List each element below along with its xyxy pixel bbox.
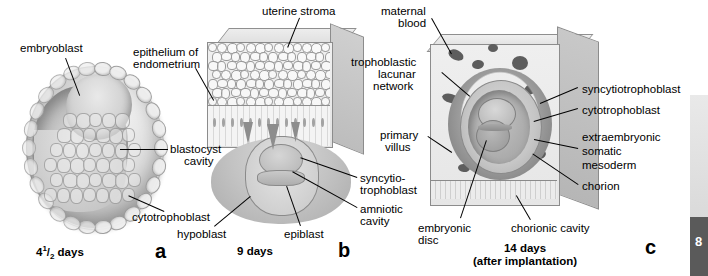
epithelial-nucleus (240, 118, 243, 127)
leader-blastocyst-cavity (120, 149, 168, 150)
panel-letter-b: b (338, 239, 350, 262)
inner-cell (128, 173, 141, 187)
panel-c-implantation-illustration (428, 32, 618, 224)
lacuna-space (488, 44, 498, 52)
caption-panel-c-line1: 14 days (440, 242, 610, 255)
inner-cell (83, 158, 96, 172)
inner-cell (102, 143, 115, 158)
caption-panel-c-line2: (after implantation) (440, 255, 610, 268)
label-maternal-blood-line2: blood (398, 17, 426, 29)
stroma-cell (321, 97, 330, 105)
inner-cell (57, 188, 70, 203)
label-epithelium-of-endometrium-line2: endometrium (133, 58, 200, 70)
label-embryoblast: embryoblast (20, 42, 83, 54)
label-embryonic-disc-line2: disc (418, 234, 438, 246)
inner-cell (89, 173, 102, 187)
inner-cell (115, 143, 128, 159)
inner-cell (96, 158, 110, 173)
stroma-cell (236, 43, 245, 52)
panel-letter-a: a (155, 240, 166, 263)
inner-cell (63, 143, 76, 158)
stroma-cell (264, 97, 273, 105)
panel-letter-c: c (645, 236, 656, 259)
label-primary-villus-line2: villus (385, 141, 411, 153)
stroma-cell (283, 61, 293, 70)
label-extraembryonic-somatic-mesoderm-line1: extraembryonic (582, 131, 661, 143)
stroma-cell (264, 43, 273, 52)
page-edge-block: 8 (686, 95, 708, 276)
label-syncytiotrophoblast-b-line2: trophoblast (360, 184, 417, 196)
embryonic-disc-b (257, 170, 305, 186)
label-cytotrophoblast-c: cytotrophoblast (582, 104, 660, 116)
lacuna-space (512, 56, 528, 70)
label-blastocyst-cavity-line2: cavity (184, 155, 213, 167)
stroma-cell (287, 88, 297, 97)
inner-cell (122, 128, 135, 142)
stroma-cell (236, 97, 245, 105)
label-syncytiotrophoblast-b-line1: syncytio- (360, 172, 405, 184)
label-syncytiotrophoblast-c: syncytiotrophoblast (582, 83, 680, 95)
label-trophoblastic-lacunar-network-line1: trophoblastic (351, 56, 416, 68)
label-chorionic-cavity: chorionic cavity (511, 222, 590, 234)
stroma-cell (315, 88, 325, 97)
uterine-stroma-texture (208, 43, 330, 105)
inner-cell (70, 128, 84, 144)
stroma-cell (208, 43, 217, 52)
label-amniotic-cavity-line2: cavity (360, 215, 389, 227)
stroma-cell (212, 70, 221, 79)
inner-cell (102, 113, 116, 128)
trophoblast-cell (93, 219, 113, 235)
inner-cell (44, 188, 57, 202)
inner-cell (122, 158, 135, 172)
epithelial-nucleus (312, 118, 315, 127)
stroma-cell (293, 43, 302, 52)
page-number: 8 (695, 234, 702, 249)
inner-cell (96, 188, 109, 203)
label-chorion: chorion (582, 180, 620, 192)
uterine-block-side-face (330, 23, 364, 155)
label-trophoblastic-lacunar-network-line3: network (373, 80, 413, 92)
caption-panel-a: 41/2 days (36, 245, 146, 261)
inner-cell (76, 173, 90, 189)
stroma-cell (268, 70, 277, 79)
stroma-cell (293, 97, 302, 105)
embryonic-disc-c (478, 124, 512, 131)
label-blastocyst-cavity-line1: blastocyst (170, 143, 221, 155)
epithelial-nucleus (285, 118, 288, 127)
surface-epithelium-c (431, 180, 557, 199)
stroma-cell (311, 61, 321, 70)
implantation-figure: embryoblast blastocyst cavity cytotropho… (0, 0, 708, 276)
inner-cell (83, 128, 96, 142)
stroma-cell (325, 70, 330, 79)
inner-cell (44, 158, 57, 172)
epithelial-nucleus (303, 118, 306, 127)
label-uterine-stroma: uterine stroma (262, 5, 336, 17)
inner-cell (109, 128, 123, 144)
stroma-cell (321, 43, 330, 52)
inner-cell (50, 173, 63, 187)
inner-cell (70, 188, 83, 204)
label-maternal-blood-line1: maternal (381, 5, 426, 17)
label-embryonic-disc-line1: embryonic (418, 222, 471, 234)
inner-cell (89, 113, 102, 127)
label-extraembryonic-somatic-mesoderm-line2: somatic (582, 145, 622, 157)
page-edge-light-band (690, 95, 708, 217)
inner-cell (89, 143, 102, 157)
panel-a-blastocyst-illustration (18, 62, 170, 234)
inner-cell (63, 113, 77, 128)
caption-panel-b: 9 days (210, 245, 300, 258)
epithelial-nucleus (321, 118, 324, 127)
label-epithelium-of-endometrium-line1: epithelium of (133, 46, 198, 58)
inner-cell (128, 143, 141, 157)
inner-cell (57, 158, 71, 173)
label-primary-villus-line1: primary (380, 129, 418, 141)
trophoblast-cell (22, 139, 36, 157)
label-epiblast: epiblast (284, 228, 324, 240)
epithelial-nucleus (222, 118, 225, 127)
stroma-cell (297, 70, 306, 79)
label-extraembryonic-somatic-mesoderm-line3: mesoderm (582, 159, 636, 171)
label-trophoblastic-lacunar-network-line2: lacunar (378, 68, 416, 80)
stroma-cell (240, 70, 249, 79)
inner-cell (76, 143, 89, 159)
trophoblast-cell (154, 139, 168, 157)
